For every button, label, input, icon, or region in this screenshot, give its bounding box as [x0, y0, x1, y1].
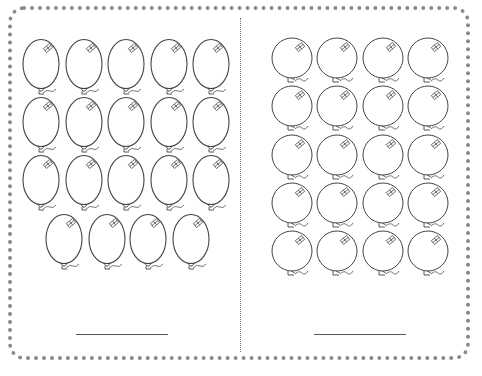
- right-answer-line[interactable]: [314, 334, 406, 335]
- balloon-art: [0, 0, 482, 376]
- left-balloon-group: [23, 40, 229, 270]
- right-balloon-group: [272, 38, 448, 275]
- left-answer-line[interactable]: [76, 334, 168, 335]
